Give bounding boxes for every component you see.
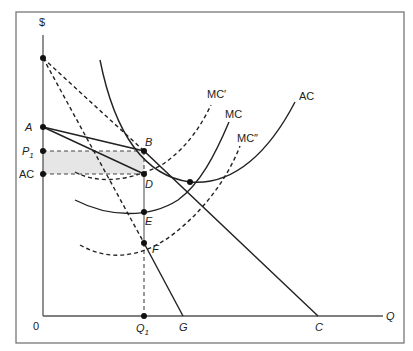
label-ac-curve: AC [299, 90, 314, 102]
label-mc-double-prime: MC″ [237, 132, 258, 144]
label-ac-axis: AC [19, 168, 34, 180]
p1-dot [40, 148, 46, 154]
x-axis-label: Q [386, 310, 395, 322]
mr-line-fg [144, 243, 183, 316]
label-q1: Q1 [136, 322, 149, 337]
label-mc: MC [225, 108, 242, 120]
label-mc-prime: MC′ [207, 88, 226, 100]
cost-curves-diagram: $ Q 0 A P1 AC Q1 G C B D E F MC′ MC MC″ … [0, 0, 413, 351]
ac-dot [40, 171, 46, 177]
point-d-dot [141, 171, 147, 177]
origin-label: 0 [33, 320, 39, 332]
profit-area [43, 151, 144, 174]
label-a: A [24, 121, 32, 133]
point-a-dot [40, 124, 46, 130]
label-b: B [145, 136, 152, 148]
label-p1: P1 [22, 145, 34, 160]
diagram-canvas: $ Q 0 A P1 AC Q1 G C B D E F MC′ MC MC″ … [0, 0, 413, 351]
label-e: E [145, 215, 153, 227]
dashed-demand-line [43, 58, 144, 151]
point-b-dot [141, 148, 147, 154]
y-axis-label: $ [39, 16, 45, 28]
label-g: G [179, 321, 188, 333]
label-f: F [152, 243, 160, 255]
label-c: C [315, 321, 323, 333]
top-intercept-dot [40, 55, 46, 61]
figure-frame [16, 12, 404, 343]
ac-minimum-dot [187, 179, 193, 185]
q1-dot [141, 313, 147, 319]
point-f-dot [141, 240, 147, 246]
label-d: D [145, 178, 153, 190]
